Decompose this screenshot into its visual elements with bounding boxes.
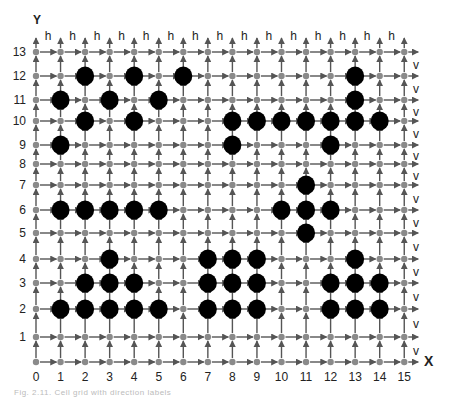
y-tick-label: 7 [19,178,26,192]
grid-node [33,207,39,213]
grid-node [229,161,235,167]
obstacle-dot [223,136,241,155]
grid-node [278,230,284,236]
grid-node [57,49,63,55]
obstacle-dot [76,274,94,293]
grid-node [33,49,39,55]
grid-node [327,49,333,55]
grid-node [278,49,284,55]
cell-grid-diagram: 012345678910111213141512345678910111213Y… [0,0,455,401]
grid-node [401,207,407,213]
grid-node [180,334,186,340]
grid-node [352,334,358,340]
grid-node [106,359,112,365]
grid-node [131,97,137,103]
grid-node [82,230,88,236]
grid-node [303,280,309,286]
grid-node [254,334,260,340]
grid-node [401,334,407,340]
x-tick-label: 4 [131,370,138,384]
grid-node [377,359,383,365]
grid-node [57,256,63,262]
grid-node [327,334,333,340]
grid-node [57,280,63,286]
grid-node [57,118,63,124]
h-label: h [217,29,224,43]
grid-node [377,230,383,236]
grid-node [278,161,284,167]
grid-node [401,182,407,188]
h-label: h [315,29,322,43]
axis-labels: 012345678910111213141512345678910111213Y… [13,13,434,384]
grid-node [303,306,309,312]
obstacle-dot [346,112,364,131]
h-label: h [45,29,52,43]
obstacle-dot [371,274,389,293]
grid-node [254,359,260,365]
grid-node [352,230,358,236]
v-label: v [413,240,419,254]
grid-node [205,97,211,103]
y-axis-label: Y [33,13,41,27]
grid-node [57,334,63,340]
grid-node [106,142,112,148]
y-tick-label: 10 [13,114,27,128]
grid-node [106,118,112,124]
obstacle-dot [101,250,119,269]
x-tick-label: 5 [155,370,162,384]
grid-node [352,359,358,365]
grid-node [33,142,39,148]
grid-node [377,142,383,148]
grid-node [327,73,333,79]
h-label: h [192,29,199,43]
obstacle-dot [199,274,217,293]
y-tick-label: 2 [19,302,26,316]
grid-node [180,359,186,365]
grid-node [278,97,284,103]
obstacle-dot [223,250,241,269]
grid-node [180,49,186,55]
obstacle-dot [223,300,241,319]
grid-node [327,182,333,188]
grid-node [254,142,260,148]
obstacle-cells [52,67,389,319]
grid-node [156,280,162,286]
grid-node [57,161,63,167]
grid-node [33,306,39,312]
grid-node [254,161,260,167]
obstacle-dot [52,300,70,319]
grid-node [278,334,284,340]
grid-node [327,161,333,167]
grid-node [33,256,39,262]
x-tick-label: 12 [324,370,338,384]
grid-node [401,256,407,262]
obstacle-dot [52,91,70,110]
grid-node [205,334,211,340]
v-label: v [413,105,419,119]
grid-node [180,230,186,236]
obstacle-dot [297,224,315,243]
grid-node [205,73,211,79]
grid-node [254,230,260,236]
grid-node [229,73,235,79]
h-label: h [118,29,125,43]
grid-node [401,306,407,312]
grid-node [401,49,407,55]
grid-node [229,207,235,213]
obstacle-dot [223,274,241,293]
h-label: h [364,29,371,43]
grid-node [278,306,284,312]
grid-node [82,256,88,262]
grid-node [377,334,383,340]
grid-node [156,161,162,167]
grid-node [106,230,112,236]
grid-node [33,230,39,236]
v-label: v [413,216,419,230]
grid-node [180,280,186,286]
grid-node [327,97,333,103]
obstacle-dot [150,91,168,110]
grid-node [82,161,88,167]
grid-node [401,280,407,286]
grid-node [205,359,211,365]
grid-node [254,182,260,188]
